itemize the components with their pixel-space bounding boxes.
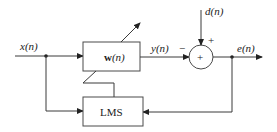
adaptive-arrow-icon (121, 23, 140, 42)
filter-label-arg: (n) (112, 51, 125, 64)
summing-junction: + (189, 45, 213, 69)
error-label: e(n) (237, 42, 255, 55)
input-branch-to-lms-wire (46, 56, 83, 111)
summer-minus-sign: − (179, 42, 185, 54)
error-feedback-wire (143, 57, 232, 112)
summer-plus-sign: + (208, 34, 214, 46)
summer-plus-symbol: + (197, 51, 203, 63)
lms-adaptive-filter-diagram: x(n) w(n) y(n) − + d(n) + e(n) LMS (0, 0, 277, 132)
input-label: x(n) (19, 40, 38, 53)
filter-label-w: w (104, 51, 112, 63)
filter-block: w(n) (83, 42, 140, 71)
lms-block: LMS (83, 97, 143, 126)
desired-label: d(n) (205, 5, 224, 18)
output-label: y(n) (150, 42, 169, 55)
svg-text:w(n): w(n) (104, 51, 125, 64)
weight-update-wire (83, 71, 114, 97)
lms-label: LMS (100, 106, 123, 118)
